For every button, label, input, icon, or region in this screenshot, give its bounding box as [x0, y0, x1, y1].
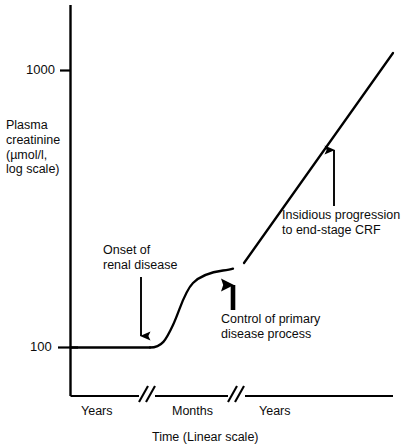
x-axis-title: Time (Linear scale): [152, 430, 259, 444]
y-tick-label-100: 100: [30, 339, 52, 354]
y-tick-label-1000: 1000: [26, 62, 55, 77]
y-axis-title: Plasma creatinine (µmol/l, log scale): [6, 118, 60, 177]
annotation-label-control: Control of primary disease process: [221, 312, 320, 342]
x-axis-segment-label-years-2: Years: [259, 404, 291, 419]
x-axis-segment-label-years-1: Years: [81, 404, 113, 419]
chart-figure: Plasma creatinine (µmol/l, log scale) 10…: [0, 0, 405, 444]
annotation-label-onset: Onset of renal disease: [103, 243, 177, 273]
axis-break-mark-1: [139, 386, 155, 402]
axis-break-mark-2: [228, 386, 244, 402]
annotation-label-insidious: Insidious progression to end-stage CRF: [282, 208, 400, 238]
x-axis-segment-label-months: Months: [172, 404, 213, 419]
